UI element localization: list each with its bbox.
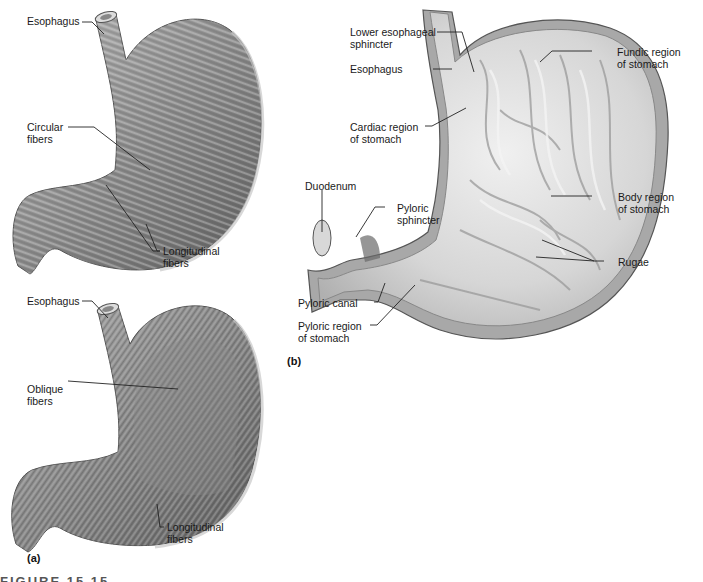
- label-longitudinal-fibers-a-top: Longitudinal fibers: [163, 245, 220, 269]
- label-fundic-region: Fundic region of stomach: [617, 46, 681, 70]
- label-circular-fibers: Circular fibers: [27, 121, 63, 145]
- label-lower-esophageal-sphincter: Lower esophageal sphincter: [350, 26, 436, 50]
- label-duodenum: Duodenum: [305, 180, 356, 192]
- label-oblique-fibers: Oblique fibers: [27, 383, 63, 407]
- label-pyloric-sphincter: Pyloric sphincter: [397, 202, 440, 226]
- label-esophagus-b: Esophagus: [350, 63, 403, 75]
- figure-caption-partial: FIGURE 15.15: [0, 574, 109, 582]
- label-esophagus-a-top: Esophagus: [27, 15, 80, 27]
- label-longitudinal-fibers-a-bottom: Longitudinal fibers: [167, 521, 224, 545]
- stomach-illustrations: [0, 0, 703, 582]
- panel-label-a: (a): [27, 552, 40, 564]
- label-pyloric-canal: Pyloric canal: [298, 297, 358, 309]
- stomach-oblique-fibers-drawing: [12, 301, 262, 552]
- label-body-region: Body region of stomach: [618, 191, 674, 215]
- stomach-internal-cross-section: [308, 10, 668, 339]
- label-cardiac-region: Cardiac region of stomach: [350, 121, 418, 145]
- label-pyloric-region: Pyloric region of stomach: [298, 320, 362, 344]
- label-esophagus-a-bottom: Esophagus: [27, 295, 80, 307]
- label-rugae: Rugae: [618, 256, 649, 268]
- panel-label-b: (b): [287, 355, 301, 367]
